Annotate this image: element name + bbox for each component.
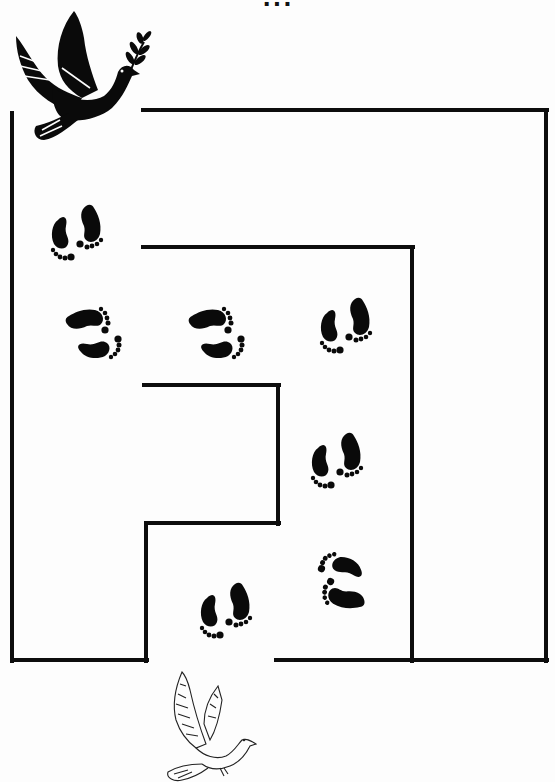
footprint-pair-icon [313, 289, 385, 365]
footprint-pair-icon [304, 424, 376, 500]
footprint-pair-icon [57, 294, 133, 366]
maze-worksheet: ... [0, 0, 555, 782]
footprint-pair-icon [193, 574, 265, 650]
footprint-pair-icon [44, 196, 116, 272]
footprint-pair-icon [180, 294, 256, 366]
white-outline-dove-icon [160, 664, 260, 782]
black-dove-with-olive-branch-icon [12, 8, 152, 143]
